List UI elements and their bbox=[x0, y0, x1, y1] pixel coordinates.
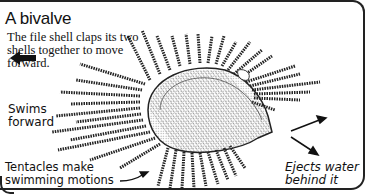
tentacles-label: Tentacles make swimming motions bbox=[5, 161, 114, 187]
diagram-description: The file shell claps its two shells toge… bbox=[7, 31, 147, 70]
diagram-title: A bivalve bbox=[5, 9, 71, 29]
diverging-arrows-icon bbox=[291, 116, 326, 155]
ejects-line-2: behind it bbox=[285, 174, 359, 187]
swims-forward-label: Swims forward bbox=[8, 103, 54, 129]
ejects-water-label: Ejects water behind it bbox=[285, 161, 359, 187]
swims-line-2: forward bbox=[8, 116, 54, 129]
curved-pointer-arrow-icon bbox=[120, 172, 148, 181]
shell bbox=[148, 68, 272, 152]
tentacles-line-2: swimming motions bbox=[5, 174, 114, 187]
